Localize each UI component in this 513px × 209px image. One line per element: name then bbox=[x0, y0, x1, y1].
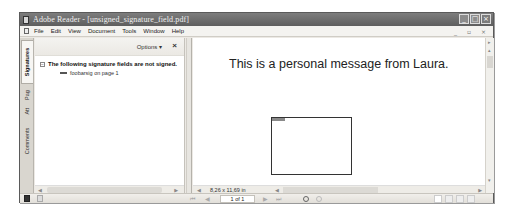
menu-help[interactable]: Help bbox=[172, 28, 184, 34]
last-page-button[interactable]: ⏭ bbox=[276, 195, 281, 203]
tab-signatures-label: Signatures bbox=[25, 48, 31, 76]
menu-tools[interactable]: Tools bbox=[122, 28, 136, 34]
scroll-up-icon[interactable]: ▴ bbox=[488, 46, 491, 54]
menu-document[interactable]: Document bbox=[88, 28, 115, 34]
close-button[interactable]: × bbox=[481, 14, 491, 24]
tab-comments-label: Comments bbox=[24, 128, 30, 155]
signature-tree: − The following signature fields are not… bbox=[40, 61, 177, 76]
options-button[interactable]: Options ▾ bbox=[137, 43, 162, 50]
document-window-controls[interactable]: _ ▫ × bbox=[454, 26, 490, 37]
document-status-bar: ◀ 8,26 x 11,69 in ◀ ▶ bbox=[193, 185, 485, 193]
menu-bar: File Edit View Document Tools Window Hel… bbox=[20, 26, 493, 37]
menu-view[interactable]: View bbox=[68, 28, 81, 34]
panel-header: Options ▾ × bbox=[35, 38, 184, 56]
tree-node-unsigned-fields[interactable]: − The following signature fields are not… bbox=[40, 61, 177, 67]
continuous-layout-button[interactable] bbox=[445, 195, 453, 203]
document-vertical-scrollbar[interactable]: ▸ ▴ ▾ bbox=[485, 38, 494, 193]
window-title: Adobe Reader - [unsigned_signature_field… bbox=[33, 15, 189, 24]
options-arrow-icon[interactable]: ▸ bbox=[488, 38, 491, 46]
document-view: This is a personal message from Laura. bbox=[193, 38, 485, 185]
page-thumbnail-icon[interactable] bbox=[37, 195, 43, 202]
tab-attachments[interactable]: Att bbox=[21, 105, 33, 119]
next-view-button[interactable] bbox=[316, 196, 322, 202]
collapse-icon[interactable]: − bbox=[40, 62, 45, 67]
scroll-down-icon[interactable]: ▾ bbox=[488, 176, 491, 184]
tree-item-foobarsig[interactable]: foobarsig on page 1 bbox=[60, 70, 177, 76]
signature-field[interactable] bbox=[271, 117, 352, 175]
tree-item-label: foobarsig on page 1 bbox=[70, 70, 119, 76]
tab-signatures[interactable]: Signatures bbox=[21, 40, 33, 84]
previous-page-button[interactable]: ◀ bbox=[205, 195, 210, 203]
menu-window[interactable]: Window bbox=[143, 28, 164, 34]
signatures-panel: Options ▾ × − The following signature fi… bbox=[35, 38, 185, 193]
panel-close-button[interactable]: × bbox=[172, 41, 177, 50]
navigation-panel-tabs: Signatures Pag Att Comments bbox=[20, 38, 34, 193]
facing-layout-button[interactable] bbox=[456, 195, 464, 203]
previous-view-button[interactable] bbox=[303, 196, 309, 202]
adobe-reader-app-icon bbox=[23, 16, 29, 24]
menu-file[interactable]: File bbox=[34, 28, 44, 34]
page-number-input[interactable]: 1 of 1 bbox=[220, 195, 255, 203]
scroll-thumb[interactable] bbox=[487, 56, 493, 68]
tab-attachments-label: Att bbox=[24, 108, 30, 116]
tab-pages-label: Pag bbox=[24, 90, 30, 100]
signature-field-marker bbox=[272, 118, 285, 121]
single-page-layout-button[interactable] bbox=[434, 195, 442, 203]
first-page-button[interactable]: ⏮ bbox=[190, 195, 195, 203]
minimize-button[interactable]: _ bbox=[459, 14, 469, 24]
options-menu-icon[interactable] bbox=[24, 195, 30, 202]
navigation-toolbar: ⏮ ◀ 1 of 1 ▶ ⏭ bbox=[20, 193, 493, 203]
document-icon[interactable] bbox=[24, 28, 29, 34]
document-text: This is a personal message from Laura. bbox=[229, 57, 449, 71]
menu-edit[interactable]: Edit bbox=[51, 28, 61, 34]
tree-header-label: The following signature fields are not s… bbox=[48, 61, 177, 67]
signature-field-icon bbox=[60, 72, 67, 74]
continuous-facing-layout-button[interactable] bbox=[467, 195, 475, 203]
next-page-button[interactable]: ▶ bbox=[263, 195, 268, 203]
tab-comments[interactable]: Comments bbox=[21, 122, 33, 160]
panel-splitter[interactable] bbox=[186, 38, 192, 193]
maximize-button[interactable]: □ bbox=[470, 14, 480, 24]
window-controls: _ □ × bbox=[459, 14, 491, 24]
panel-horizontal-scrollbar[interactable]: ◀ ▶ bbox=[35, 185, 184, 193]
tab-pages[interactable]: Pag bbox=[21, 86, 33, 104]
adobe-reader-window: Adobe Reader - [unsigned_signature_field… bbox=[19, 12, 494, 203]
title-bar: Adobe Reader - [unsigned_signature_field… bbox=[20, 13, 493, 26]
